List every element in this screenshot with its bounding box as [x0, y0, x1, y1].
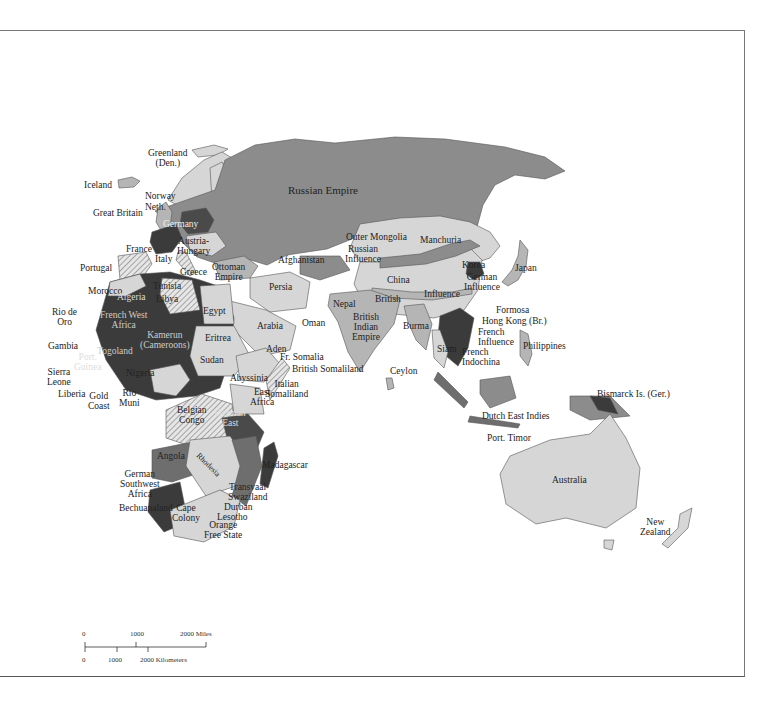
- label-nepal: Nepal: [333, 299, 356, 309]
- label-text: Port.: [79, 352, 97, 362]
- tasmania-shape: [604, 540, 614, 550]
- label-abyssinia: Abyssinia: [230, 373, 268, 383]
- label-manchuria: Manchuria: [420, 235, 461, 245]
- ceylon-shape: [386, 378, 394, 390]
- label-text: Greenland: [148, 148, 188, 158]
- label-formosa: Formosa: [496, 305, 529, 315]
- label-text: Belgian: [177, 405, 207, 415]
- label-text: Empire: [215, 272, 243, 282]
- label-text: British: [353, 312, 379, 322]
- label-text: Rio de: [52, 307, 77, 317]
- label-italy: Italy: [155, 254, 172, 264]
- label-german-influence: GermanInfluence: [464, 272, 500, 292]
- label-dutch-east-indies: Dutch East Indies: [482, 411, 550, 421]
- label-angola: Angola: [157, 451, 185, 461]
- label-gambia: Gambia: [48, 341, 78, 351]
- label-text: French West: [100, 310, 147, 320]
- label-text: Free State: [204, 530, 242, 540]
- label-libya: Libya: [156, 294, 178, 304]
- label-text: Zealand: [640, 527, 671, 537]
- label-text: Gold: [89, 391, 108, 401]
- label-text: Orange: [209, 520, 237, 530]
- scale-km-0: 0: [82, 656, 86, 664]
- label-influence-china: Influence: [424, 289, 460, 299]
- label-liberia: Liberia: [58, 389, 85, 399]
- label-text: Oro: [57, 317, 72, 327]
- label-text: Ottoman: [212, 262, 245, 272]
- label-madagascar: Madagascar: [262, 460, 308, 470]
- label-tunisia: Tunisia: [153, 281, 181, 291]
- label-ceylon: Ceylon: [390, 366, 417, 376]
- label-great-britain: Great Britain: [93, 208, 143, 218]
- label-orange-free-state: OrangeFree State: [204, 520, 242, 540]
- label-afghanistan: Afghanistan: [278, 255, 324, 265]
- label-text: Southwest: [120, 479, 160, 489]
- label-text: Rio: [122, 388, 136, 398]
- label-text: Russian: [348, 244, 378, 254]
- label-text: Congo: [179, 415, 204, 425]
- label-australia: Australia: [552, 475, 587, 485]
- label-norway: Norway: [145, 191, 176, 201]
- label-hong-kong: Hong Kong (Br.): [482, 316, 547, 326]
- label-russian-influence: RussianInfluence: [345, 244, 381, 264]
- label-british-somaliland: British Somaliland: [292, 364, 364, 374]
- sumatra-shape: [434, 372, 468, 408]
- label-text: (Cameroons): [140, 340, 190, 350]
- australia-shape: [500, 414, 640, 528]
- label-kamerun: Kamerun(Cameroons): [140, 330, 190, 350]
- label-gold-coast: GoldCoast: [88, 391, 110, 411]
- egypt-shape: [200, 284, 234, 324]
- label-text: Africa: [112, 320, 136, 330]
- label-greenland: Greenland(Den.): [148, 148, 188, 168]
- label-text: New: [646, 517, 664, 527]
- label-cape-colony: CapeColony: [172, 503, 200, 523]
- label-arabia: Arabia: [257, 321, 283, 331]
- scale-km-2000: 2000 Kilometers: [140, 656, 187, 664]
- label-togoland: Togoland: [97, 346, 133, 356]
- label-new-zealand: NewZealand: [640, 517, 671, 537]
- label-text: French: [478, 327, 504, 337]
- borneo-shape: [480, 376, 516, 408]
- label-german-sw-africa: GermanSouthwestAfrica: [120, 469, 160, 499]
- label-neth: Neth.: [145, 202, 166, 212]
- label-text: Hungary: [177, 246, 210, 256]
- label-text: Coast: [88, 401, 110, 411]
- label-french-indochina: FrenchIndochina: [462, 347, 500, 367]
- label-text: Sierra: [48, 367, 71, 377]
- label-austria-hungary: Austria-Hungary: [177, 236, 210, 256]
- label-port-timor: Port. Timor: [487, 433, 531, 443]
- label-rio-muni: RioMuni: [119, 388, 140, 408]
- label-text: German: [215, 408, 246, 418]
- label-swaziland: Swaziland: [228, 492, 268, 502]
- label-bechuanaland: Bechuanaland: [119, 503, 173, 513]
- label-transvaal: Transvaal: [229, 482, 266, 492]
- label-japan: Japan: [515, 263, 537, 273]
- label-text: East: [254, 387, 270, 397]
- label-british-indian-empire: BritishIndianEmpire: [352, 312, 380, 342]
- label-durban: Durban: [224, 502, 253, 512]
- label-france: France: [126, 244, 152, 254]
- label-text: Muni: [119, 398, 140, 408]
- label-german-east: GermanEast: [215, 408, 246, 428]
- label-text: Indian: [354, 322, 378, 332]
- label-algeria: Algeria: [117, 292, 146, 302]
- label-text: German: [467, 272, 498, 282]
- label-iceland: Iceland: [84, 180, 112, 190]
- label-text: Italian: [275, 379, 299, 389]
- label-sudan: Sudan: [200, 355, 224, 365]
- map-canvas: [0, 0, 759, 713]
- label-text: Africa: [250, 397, 274, 407]
- label-korea: Korea: [462, 260, 485, 270]
- label-french-influence: FrenchInfluence: [478, 327, 514, 347]
- label-port-guinea: Port.Guinea: [74, 352, 101, 372]
- label-text: Leone: [47, 377, 71, 387]
- label-portugal: Portugal: [80, 263, 112, 273]
- label-persia: Persia: [269, 282, 292, 292]
- label-text: Influence: [345, 254, 381, 264]
- scale-km-1000: 1000: [108, 656, 122, 664]
- label-bismarck: Bismarck Is. (Ger.): [597, 389, 670, 399]
- label-china: China: [387, 275, 410, 285]
- label-germany: Germany: [163, 219, 198, 229]
- scale-bar: 0 1000 2000 Miles 0 1000 2000 Kilometers: [80, 628, 240, 668]
- label-eritrea: Eritrea: [205, 333, 231, 343]
